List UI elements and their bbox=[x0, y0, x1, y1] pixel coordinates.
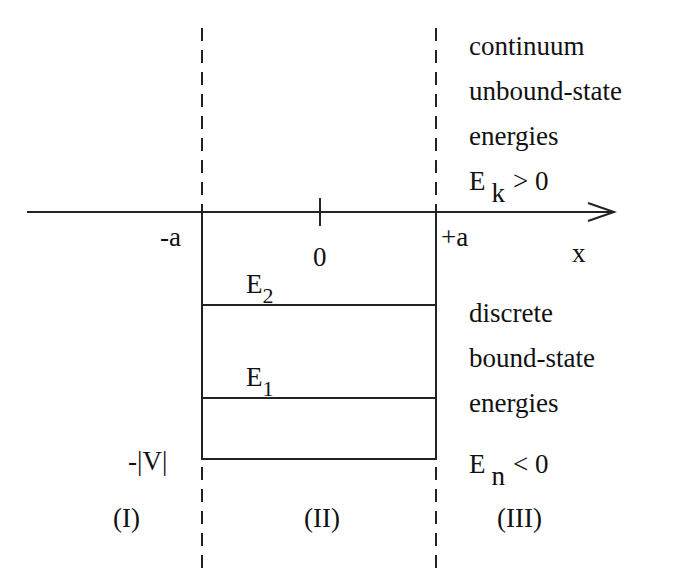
continuum-condition: Ek> 0 bbox=[469, 166, 548, 208]
diagram-canvas: -a 0 +a x E2 E1 -|V| continuum unbound-s… bbox=[0, 0, 692, 575]
continuum-line-2: unbound-state bbox=[469, 76, 622, 106]
bound-line-3: energies bbox=[469, 388, 558, 418]
tick-label-origin: 0 bbox=[313, 242, 327, 272]
bound-line-1: discrete bbox=[469, 298, 553, 328]
continuum-line-3: energies bbox=[469, 121, 558, 151]
axis-label-x: x bbox=[572, 238, 586, 268]
bound-line-2: bound-state bbox=[469, 343, 595, 373]
tick-label-minus-a: -a bbox=[160, 222, 181, 252]
region-label-2: (II) bbox=[304, 503, 340, 533]
bound-condition: En< 0 bbox=[469, 449, 548, 491]
level-label-e2: E2 bbox=[246, 269, 274, 308]
potential-well-diagram: -a 0 +a x E2 E1 -|V| continuum unbound-s… bbox=[0, 0, 692, 575]
region-label-3: (III) bbox=[497, 503, 542, 533]
level-label-e1: E1 bbox=[246, 362, 274, 401]
region-label-1: (I) bbox=[113, 503, 140, 533]
well-depth-label: -|V| bbox=[128, 446, 167, 476]
continuum-line-1: continuum bbox=[469, 31, 585, 61]
tick-label-plus-a: +a bbox=[441, 222, 468, 252]
